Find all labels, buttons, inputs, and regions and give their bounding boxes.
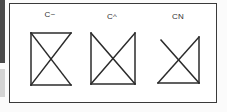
shape-c-tilde xyxy=(31,33,71,85)
shape-cn xyxy=(158,37,199,83)
shape-drawings xyxy=(0,0,227,112)
diagonal-down xyxy=(161,40,199,83)
diagram-canvas: C~ C^ CN xyxy=(0,0,227,112)
shape-c-caret xyxy=(91,33,135,84)
